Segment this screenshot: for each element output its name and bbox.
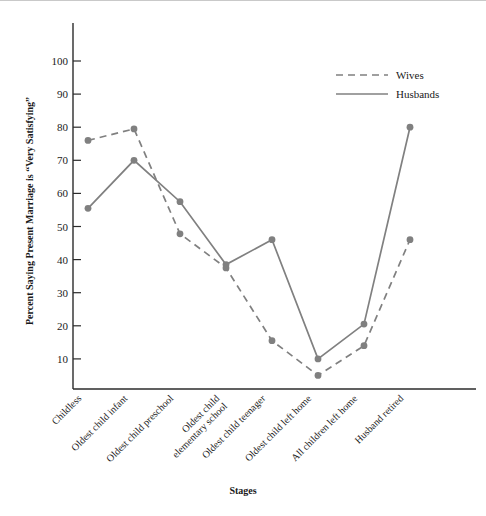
line-chart: Percent Saying Present Marriage is “Very… (0, 1, 486, 516)
series-husbands (85, 124, 414, 363)
data-point (361, 321, 368, 328)
y-tick-label-20: 20 (57, 320, 69, 332)
data-point (131, 157, 138, 164)
data-point (177, 198, 184, 205)
y-tick-label-100: 100 (52, 55, 69, 67)
y-tick-label-30: 30 (57, 287, 69, 299)
y-tick-label-40: 40 (57, 254, 69, 266)
y-tick-label-80: 80 (57, 121, 69, 133)
x-axis-title: Stages (229, 485, 256, 496)
data-point (361, 342, 368, 349)
chart-legend: Wives Husbands (336, 69, 439, 100)
data-point (407, 124, 414, 131)
data-point (177, 230, 184, 237)
y-axis-ticks: 100 90 80 70 60 50 40 30 20 10 (52, 55, 82, 365)
y-tick-label-60: 60 (57, 187, 69, 199)
data-point (315, 372, 322, 379)
data-point (407, 236, 414, 243)
y-axis-title: Percent Saying Present Marriage is “Very… (24, 97, 35, 325)
data-point (131, 126, 138, 133)
data-point (315, 356, 322, 363)
data-point (269, 337, 276, 344)
legend-label-wives: Wives (396, 69, 424, 81)
legend-label-husbands: Husbands (396, 88, 439, 100)
data-point (223, 265, 230, 272)
y-tick-label-70: 70 (57, 154, 69, 166)
data-point (269, 236, 276, 243)
y-tick-label-90: 90 (57, 88, 69, 100)
husbands-markers (85, 124, 414, 363)
x-axis-label: Childless (49, 393, 83, 427)
data-point (85, 205, 92, 212)
chart-page: Percent Saying Present Marriage is “Very… (0, 0, 486, 516)
x-axis-category-labels: ChildlessOldest child infantOldest child… (49, 392, 405, 464)
data-point (85, 137, 92, 144)
y-tick-label-50: 50 (57, 221, 69, 233)
y-tick-label-10: 10 (57, 353, 69, 365)
x-axis-label: Husband retired (352, 393, 405, 446)
